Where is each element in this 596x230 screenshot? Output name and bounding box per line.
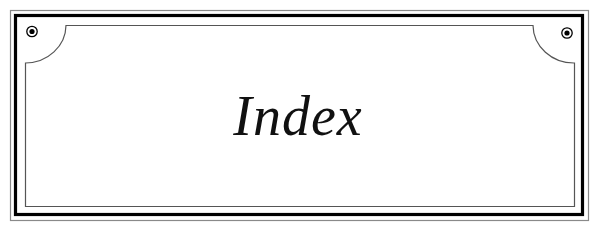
screw-head-icon bbox=[562, 28, 572, 38]
screw-head-icon bbox=[27, 26, 37, 36]
index-plaque: Index bbox=[0, 0, 596, 230]
page-title: Index bbox=[0, 86, 596, 146]
